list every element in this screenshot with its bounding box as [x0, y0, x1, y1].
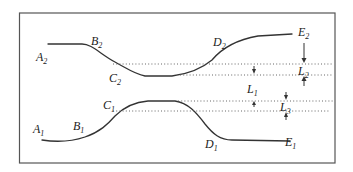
- label-a1: A1: [32, 122, 44, 138]
- label-e2: E2: [297, 25, 309, 41]
- diagram-canvas: A2 B2 C2 D2 E2 A1 B1 C1 D1 E1 L1 L2 L3: [0, 0, 353, 172]
- label-c1: C1: [103, 98, 115, 114]
- label-l3: L3: [279, 100, 291, 116]
- label-a2: A2: [35, 50, 47, 66]
- label-l1: L1: [246, 82, 258, 98]
- label-l2: L2: [297, 64, 309, 80]
- label-e1: E1: [284, 135, 296, 151]
- label-b1: B1: [73, 119, 84, 135]
- label-d2: D2: [212, 35, 226, 51]
- arrow-down-icon: [252, 69, 256, 74]
- label-d1: D1: [204, 137, 218, 153]
- label-c2: C2: [109, 71, 121, 87]
- arrow-down-icon: [302, 58, 307, 63]
- label-b2: B2: [91, 34, 102, 50]
- arrow-up-icon: [252, 101, 256, 105]
